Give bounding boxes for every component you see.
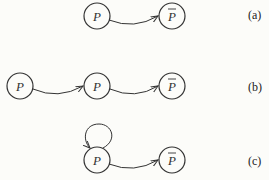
svg-text:P: P (167, 79, 176, 94)
node-p: P (84, 73, 110, 99)
svg-text:P: P (92, 153, 101, 168)
edge-arrow (109, 16, 158, 24)
svg-text:P: P (167, 9, 176, 24)
node-p-bar: P (159, 3, 185, 29)
svg-text:P: P (167, 153, 176, 168)
svg-text:P: P (92, 9, 101, 24)
panel-label-b: (b) (248, 80, 262, 94)
node-p: P (7, 73, 33, 99)
diagram-canvas: P P (a) P P P (b) P (0, 0, 269, 180)
edge-arrow (33, 86, 83, 94)
svg-text:P: P (15, 79, 24, 94)
node-p: P (84, 3, 110, 29)
self-loop-arrow (85, 124, 111, 148)
edge-arrow (109, 160, 158, 168)
panel-b: P P P (b) (7, 73, 262, 99)
panel-label-c: (c) (248, 154, 261, 168)
panel-c: P P (c) (84, 124, 261, 173)
panel-label-a: (a) (248, 8, 261, 22)
svg-text:P: P (92, 79, 101, 94)
node-p-bar: P (159, 147, 185, 173)
node-p-bar: P (159, 73, 185, 99)
state-diagram: P P (a) P P P (b) P (0, 0, 269, 180)
edge-arrow (110, 86, 158, 94)
node-p: P (84, 147, 110, 173)
panel-a: P P (a) (84, 3, 261, 29)
